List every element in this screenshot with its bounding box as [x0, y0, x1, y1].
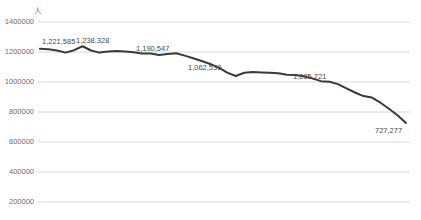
data-series-line	[40, 46, 406, 123]
data-point-label: 1,190,547	[136, 45, 169, 53]
line-chart: 人 1400000 1200000 1000000 800000 600000 …	[0, 0, 421, 220]
data-point-label: 1,005,721	[293, 73, 326, 81]
data-point-label: 727,277	[375, 127, 402, 135]
plot-area	[0, 0, 421, 220]
gridlines	[38, 22, 410, 202]
data-point-label: 1,221,585	[42, 38, 75, 46]
data-point-label: 1,238,328	[76, 37, 109, 45]
data-point-label: 1,062,530	[188, 64, 221, 72]
